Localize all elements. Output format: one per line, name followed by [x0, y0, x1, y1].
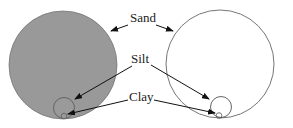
- sand-arrow-right: [156, 25, 173, 31]
- silt-arrow-right: [151, 65, 209, 99]
- sand-label: Sand: [130, 10, 157, 25]
- filled-particles-group: [9, 11, 117, 119]
- particle-size-diagram: Sand Silt Clay: [0, 0, 293, 128]
- outline-particles-group: [166, 10, 274, 118]
- sand-arrow-left: [111, 25, 128, 31]
- sand-particle-outline: [166, 10, 274, 118]
- silt-particle-outline: [211, 97, 232, 118]
- clay-particle-filled: [61, 113, 67, 119]
- clay-arrow-right: [154, 100, 215, 113]
- clay-label: Clay: [129, 89, 154, 104]
- silt-label: Silt: [131, 51, 149, 66]
